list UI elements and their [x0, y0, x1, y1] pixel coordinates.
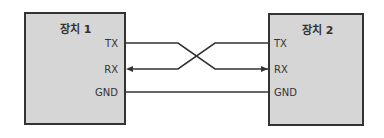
wiring — [0, 0, 384, 138]
wire-tx2-rx1 — [128, 43, 268, 69]
arrow-into-device-1-rx — [126, 66, 133, 72]
arrow-into-device-2-rx — [261, 66, 268, 72]
